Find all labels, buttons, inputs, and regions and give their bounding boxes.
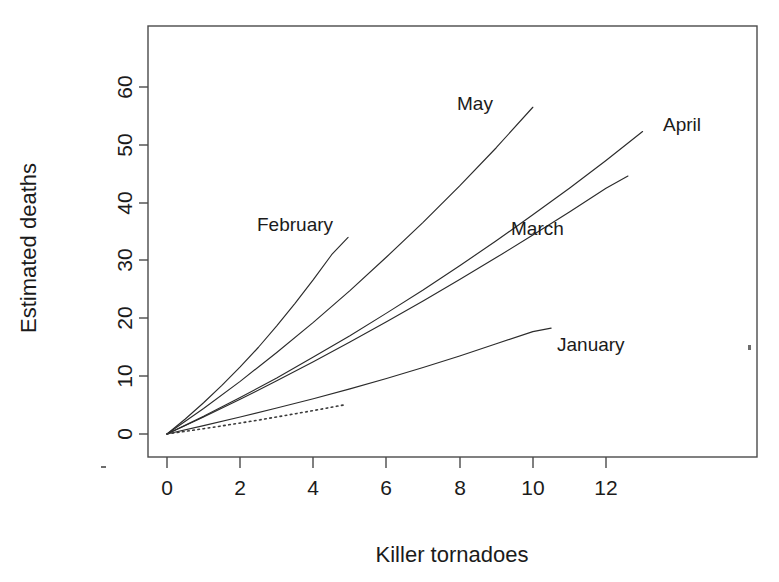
series-inline-labels: February May April March January xyxy=(257,93,701,355)
y-tick-label-30: 30 xyxy=(113,248,136,271)
x-tick-label-10: 10 xyxy=(521,476,544,499)
series-label-february: February xyxy=(257,214,334,235)
plot-frame xyxy=(148,26,757,457)
y-tick-label-50: 50 xyxy=(113,133,136,156)
curve-march xyxy=(167,176,628,434)
data-curves xyxy=(167,107,643,434)
y-tick-label-0: 0 xyxy=(113,428,136,440)
curve-reference-dotted xyxy=(167,405,346,435)
series-label-may: May xyxy=(457,93,493,114)
scan-speck-left xyxy=(101,466,106,468)
curve-april xyxy=(167,132,643,434)
x-tick-label-4: 4 xyxy=(307,476,319,499)
x-axis-title: Killer tornadoes xyxy=(376,542,529,567)
series-label-january: January xyxy=(557,334,625,355)
x-tick-label-12: 12 xyxy=(594,476,617,499)
y-axis-ticks xyxy=(139,87,148,434)
x-tick-label-0: 0 xyxy=(161,476,173,499)
x-tick-label-2: 2 xyxy=(234,476,246,499)
series-label-march: March xyxy=(511,218,564,239)
x-tick-label-6: 6 xyxy=(380,476,392,499)
y-axis-title: Estimated deaths xyxy=(16,163,41,333)
chart-figure: 0 10 20 30 40 50 60 0 2 4 6 8 10 12 xyxy=(0,0,779,582)
curve-february xyxy=(167,237,348,434)
x-axis-ticks xyxy=(167,457,606,468)
x-tick-label-8: 8 xyxy=(454,476,466,499)
y-tick-label-20: 20 xyxy=(113,306,136,329)
y-tick-label-10: 10 xyxy=(113,364,136,387)
scan-speck-right xyxy=(748,345,751,350)
y-axis-tick-labels: 0 10 20 30 40 50 60 xyxy=(113,75,136,440)
series-label-april: April xyxy=(663,114,701,135)
y-tick-label-60: 60 xyxy=(113,75,136,98)
line-chart-canvas: 0 10 20 30 40 50 60 0 2 4 6 8 10 12 xyxy=(0,0,779,582)
y-tick-label-40: 40 xyxy=(113,191,136,214)
x-axis-tick-labels: 0 2 4 6 8 10 12 xyxy=(161,476,618,499)
curve-january xyxy=(167,328,551,434)
